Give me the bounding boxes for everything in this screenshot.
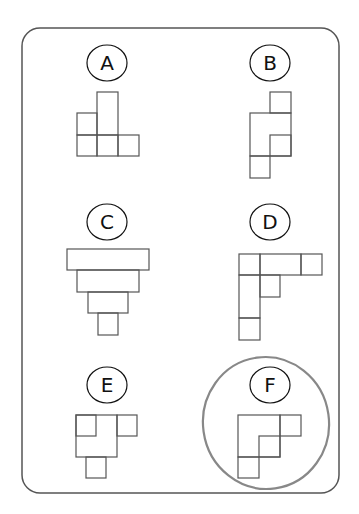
option-label: D — [262, 210, 277, 234]
shape-cell — [301, 254, 322, 275]
option-label: F — [264, 373, 276, 397]
option-label: B — [263, 51, 277, 75]
shape-cell — [117, 415, 137, 436]
shape-cell — [76, 415, 96, 436]
shape-cell — [98, 313, 118, 335]
shape-cell — [250, 156, 270, 178]
shape-cell — [97, 135, 118, 156]
shape-cell — [239, 275, 260, 318]
shape-cell — [88, 292, 128, 313]
option-label: A — [100, 51, 114, 75]
shape-cell — [239, 318, 260, 340]
shape-cell — [97, 92, 118, 135]
option-d[interactable]: D — [239, 204, 322, 340]
shape-cell — [280, 415, 301, 436]
shape-cell — [260, 275, 280, 297]
shape-cell — [118, 135, 139, 156]
option-label: E — [101, 373, 114, 397]
option-b[interactable]: B — [250, 45, 291, 178]
shape-cell — [86, 457, 106, 478]
shape-cell — [239, 254, 260, 275]
option-label: C — [100, 210, 114, 234]
shape-cell — [67, 249, 149, 270]
shape-cell — [270, 135, 291, 156]
shape-cell — [77, 113, 97, 135]
shape-cell — [270, 92, 291, 113]
option-f[interactable]: F — [238, 367, 301, 478]
shape-cell — [259, 436, 280, 457]
shape-cell — [77, 270, 139, 292]
shape-cell — [260, 254, 301, 275]
shape-cell — [238, 457, 259, 478]
shape-cell — [77, 135, 97, 156]
option-a[interactable]: A — [77, 45, 139, 156]
option-e[interactable]: E — [76, 367, 137, 478]
puzzle-diagram: ABCDEF — [0, 0, 359, 514]
option-c[interactable]: C — [67, 204, 149, 335]
